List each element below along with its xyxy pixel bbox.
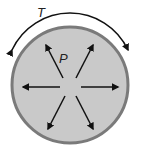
vessel-circle xyxy=(12,27,128,143)
pressure-tension-diagram: T P xyxy=(0,0,143,156)
pressure-label: P xyxy=(59,51,68,66)
tension-label: T xyxy=(37,5,46,20)
